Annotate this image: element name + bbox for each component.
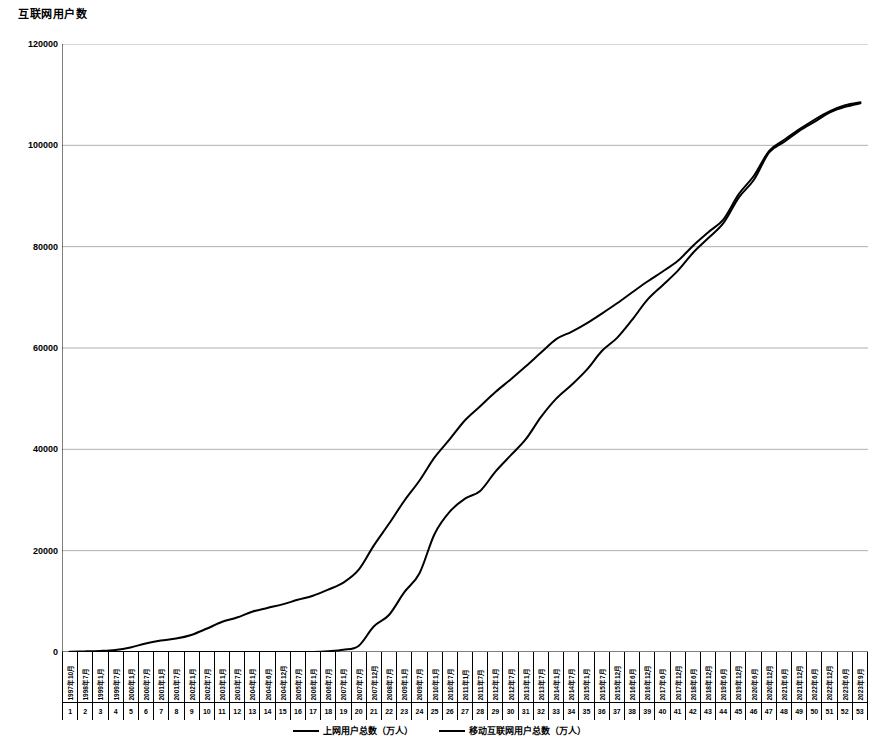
- legend-line-swatch-icon: [293, 730, 319, 732]
- x-axis-index-label: 51: [822, 703, 836, 720]
- x-axis-index-label: 30: [503, 703, 517, 720]
- x-axis-date-label: 2006年1月: [306, 652, 320, 703]
- x-axis-column: 2014年7月34: [564, 652, 579, 720]
- plot-area: [62, 44, 868, 652]
- x-axis-date-label: 2014年7月: [564, 652, 578, 703]
- x-axis-column: 2012年7月30: [503, 652, 518, 720]
- x-axis-date-label: 2007年1月: [336, 652, 350, 703]
- x-axis-index-label: 6: [139, 703, 153, 720]
- x-axis-column: 2000年1月5: [124, 652, 139, 720]
- y-axis-tick-label: 60000: [2, 343, 58, 353]
- x-axis-column: 2016年12月39: [640, 652, 655, 720]
- legend-item: 移动互联网用户总数（万人）: [439, 724, 586, 737]
- x-axis-index-label: 5: [124, 703, 138, 720]
- x-axis-date-label: 2004年6月: [260, 652, 274, 703]
- x-axis-column: 2008年7月22: [382, 652, 397, 720]
- x-axis-date-label: 2015年7月: [595, 652, 609, 703]
- x-axis-column: 2011年1月27: [458, 652, 473, 720]
- x-axis-column: 2004年12月15: [276, 652, 291, 720]
- x-axis-column: 2022年6月50: [807, 652, 822, 720]
- y-axis-tick-label: 20000: [2, 546, 58, 556]
- x-axis-date-label: 2009年7月: [412, 652, 426, 703]
- x-axis-date-label: 2015年1月: [579, 652, 593, 703]
- series-line: [70, 103, 861, 652]
- x-axis-date-label: 2018年12月: [701, 652, 715, 703]
- x-axis-date-label: 2011年1月: [458, 652, 472, 703]
- x-axis-date-label: 1999年1月: [93, 652, 107, 703]
- x-axis-column: 2023年6月52: [838, 652, 853, 720]
- x-axis-date-label: 2007年12月: [367, 652, 381, 703]
- x-axis-column: 2006年7月18: [321, 652, 336, 720]
- series-lines: [70, 102, 861, 652]
- y-axis-tick-label: 0: [2, 647, 58, 657]
- x-axis-column: 2023年9月53: [853, 652, 868, 720]
- x-axis-index-label: 37: [610, 703, 624, 720]
- x-axis-column: 2017年12月41: [671, 652, 686, 720]
- x-axis-column: 2020年12月47: [762, 652, 777, 720]
- x-axis-date-label: 2012年7月: [503, 652, 517, 703]
- x-axis-date-label: 1998年7月: [78, 652, 92, 703]
- x-axis-date-label: 2013年1月: [519, 652, 533, 703]
- x-axis-index-label: 1: [63, 703, 77, 720]
- x-axis-index-label: 24: [412, 703, 426, 720]
- x-axis-index-label: 39: [640, 703, 654, 720]
- legend-line-swatch-icon: [439, 730, 465, 732]
- x-axis-date-label: 1999年7月: [109, 652, 123, 703]
- legend-label: 移动互联网用户总数（万人）: [469, 724, 586, 737]
- x-axis-index-label: 13: [245, 703, 259, 720]
- x-axis-column: 2016年6月38: [625, 652, 640, 720]
- x-axis-date-label: 2005年7月: [291, 652, 305, 703]
- x-axis-index-label: 50: [807, 703, 821, 720]
- x-axis-column: 2010年7月26: [443, 652, 458, 720]
- x-axis-index-label: 19: [336, 703, 350, 720]
- x-axis-column: 2019年6月44: [716, 652, 731, 720]
- x-axis-date-label: 2014年1月: [549, 652, 563, 703]
- y-axis-tick-label: 80000: [2, 242, 58, 252]
- x-axis-column: 2004年6月14: [260, 652, 275, 720]
- x-axis-index-label: 9: [185, 703, 199, 720]
- x-axis-column: 2007年7月20: [352, 652, 367, 720]
- x-axis-index-label: 2: [78, 703, 92, 720]
- x-axis-column: 2002年7月10: [200, 652, 215, 720]
- gridlines: [62, 44, 868, 551]
- x-axis-date-label: 2021年12月: [792, 652, 806, 703]
- x-axis-column: 2009年7月24: [412, 652, 427, 720]
- x-axis-index-label: 41: [671, 703, 685, 720]
- x-axis-index-label: 27: [458, 703, 472, 720]
- x-axis-date-label: 2023年9月: [853, 652, 867, 703]
- x-axis-date-label: 2022年6月: [807, 652, 821, 703]
- x-axis-index-label: 20: [352, 703, 366, 720]
- x-axis-column: 2022年12月51: [822, 652, 837, 720]
- x-axis-column: 2006年1月17: [306, 652, 321, 720]
- x-axis-index-label: 43: [701, 703, 715, 720]
- x-axis-column: 2000年7月6: [139, 652, 154, 720]
- x-axis-index-label: 25: [428, 703, 442, 720]
- x-axis-index-label: 49: [792, 703, 806, 720]
- x-axis-date-label: 2012年1月: [488, 652, 502, 703]
- x-axis-index-label: 32: [534, 703, 548, 720]
- x-axis-column: 2001年7月8: [169, 652, 184, 720]
- internet-users-chart: 互联网用户数 020000400006000080000100000120000…: [0, 0, 878, 741]
- y-axis-tick-label: 120000: [2, 39, 58, 49]
- series-line: [70, 102, 861, 651]
- x-axis-date-label: 2003年1月: [215, 652, 229, 703]
- x-axis-date-label: 2020年6月: [746, 652, 760, 703]
- x-axis-column: 2015年7月36: [595, 652, 610, 720]
- x-axis-column: 2021年12月49: [792, 652, 807, 720]
- x-axis-column: 2019年12月45: [731, 652, 746, 720]
- x-axis-date-label: 1997年10月: [63, 652, 77, 703]
- x-axis-date-label: 2001年7月: [169, 652, 183, 703]
- x-axis-column: 2005年7月16: [291, 652, 306, 720]
- x-axis-index-label: 46: [746, 703, 760, 720]
- x-axis-column: 2021年6月48: [777, 652, 792, 720]
- x-axis-column: 2003年1月11: [215, 652, 230, 720]
- x-axis-column: 2007年1月19: [336, 652, 351, 720]
- x-axis-column: 2020年6月46: [746, 652, 761, 720]
- x-axis-column: 2009年1月23: [397, 652, 412, 720]
- x-axis-date-label: 2006年7月: [321, 652, 335, 703]
- x-axis-index-label: 21: [367, 703, 381, 720]
- x-axis-column: 2014年1月33: [549, 652, 564, 720]
- x-axis-index-label: 18: [321, 703, 335, 720]
- x-axis-index-label: 35: [579, 703, 593, 720]
- x-axis-column: 2012年1月29: [488, 652, 503, 720]
